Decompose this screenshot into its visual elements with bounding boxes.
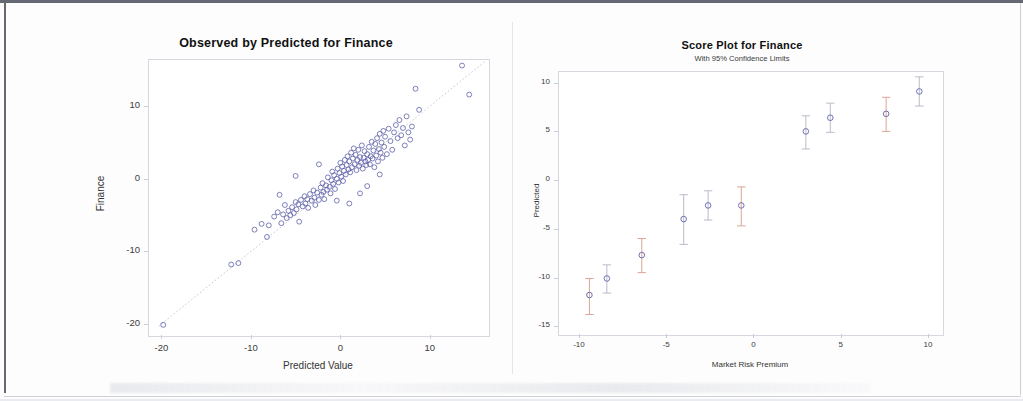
scatter-point: [467, 92, 472, 97]
y-tick-mark: [144, 251, 148, 252]
x-tick-mark: [430, 335, 431, 339]
scatter-point: [460, 63, 465, 68]
x-tick-label: 5: [821, 340, 861, 349]
right-y-axis-title: Predicted: [532, 151, 541, 251]
right-x-axis-title: Market Risk Premium: [558, 360, 942, 369]
right-chart-panel: Score Plot for Finance With 95% Confiden…: [512, 0, 972, 401]
page-border-left: [4, 3, 6, 393]
scatter-point: [302, 194, 307, 199]
x-tick-mark: [928, 334, 929, 338]
scatter-point: [279, 221, 284, 226]
scatter-point: [380, 155, 385, 160]
x-tick-label: -10: [231, 342, 271, 353]
left-chart-panel: Observed by Predicted for Finance Predic…: [60, 0, 512, 401]
x-tick-label: 10: [908, 340, 948, 349]
y-tick-label: 0: [518, 174, 550, 183]
scatter-point: [275, 210, 280, 215]
scatter-point: [297, 219, 302, 224]
scatter-point: [399, 133, 404, 138]
scatter-point: [406, 130, 411, 135]
scatter-point: [322, 197, 327, 202]
scatter-point: [404, 114, 409, 119]
x-tick-mark: [666, 334, 667, 338]
scatter-point: [259, 221, 264, 226]
scatter-point: [316, 197, 321, 202]
errorbar-point: [915, 77, 923, 106]
x-tick-label: -10: [559, 340, 599, 349]
scatter-point: [388, 139, 393, 144]
errorbar-point: [603, 265, 611, 293]
scatter-point: [306, 205, 311, 210]
x-tick-label: -20: [141, 342, 181, 353]
scatter-point: [316, 162, 321, 167]
scatter-point: [402, 143, 407, 148]
scatter-point: [277, 192, 282, 197]
scatter-point: [356, 147, 361, 152]
errorbar-point: [704, 191, 712, 220]
y-tick-mark: [554, 278, 558, 279]
left-y-axis-title: Finance: [95, 144, 106, 244]
y-tick-label: 5: [518, 125, 550, 134]
x-tick-label: -5: [646, 340, 686, 349]
scatter-point: [410, 124, 415, 129]
y-tick-label: -15: [518, 320, 550, 329]
scatter-point: [374, 153, 379, 158]
scatter-point: [334, 198, 339, 203]
x-tick-mark: [340, 335, 341, 339]
scatter-point: [383, 134, 388, 139]
left-plot-canvas: [60, 0, 512, 401]
scatter-point: [390, 147, 395, 152]
scatter-point: [384, 152, 389, 157]
scatter-point: [341, 179, 346, 184]
errorbar-point: [585, 278, 593, 314]
x-tick-label: 10: [410, 342, 450, 353]
x-tick-label: 0: [733, 340, 773, 349]
y-tick-mark: [554, 326, 558, 327]
scatter-point: [161, 322, 166, 327]
scatter-point: [333, 187, 338, 192]
scatter-point: [229, 262, 234, 267]
y-tick-mark: [144, 179, 148, 180]
errorbar-point: [737, 187, 745, 226]
errorbar-series: [585, 77, 923, 315]
left-x-axis-title: Predicted Value: [148, 360, 488, 371]
scatter-point: [272, 214, 277, 219]
scatter-point: [393, 123, 398, 128]
scatter-point: [359, 143, 364, 148]
x-tick-mark: [753, 334, 754, 338]
y-tick-mark: [554, 180, 558, 181]
scatter-point: [367, 144, 372, 149]
x-tick-mark: [841, 334, 842, 338]
scatter-point: [392, 130, 397, 135]
y-tick-label: 0: [102, 172, 140, 183]
scatter-point: [408, 137, 413, 142]
x-tick-label: 0: [320, 342, 360, 353]
x-tick-mark: [251, 335, 252, 339]
x-tick-mark: [161, 335, 162, 339]
scatter-point: [252, 227, 257, 232]
scatter-point: [376, 159, 381, 164]
scatter-point: [417, 107, 422, 112]
scatter-point: [293, 173, 298, 178]
scatter-point: [309, 198, 314, 203]
scatter-point: [413, 86, 418, 91]
scatter-point: [300, 204, 305, 209]
scatter-point: [397, 118, 402, 123]
y-tick-label: -5: [518, 223, 550, 232]
errorbar-point: [638, 239, 646, 273]
scatter-point: [266, 223, 271, 228]
errorbar-point: [882, 97, 890, 131]
scatter-point: [381, 128, 386, 133]
scatter-point: [328, 191, 333, 196]
scatter-point: [382, 144, 387, 149]
y-tick-label: -10: [518, 272, 550, 281]
scatter-point: [372, 165, 377, 170]
scatter-point: [294, 207, 299, 212]
page-border-right: [1020, 3, 1021, 395]
scatter-points: [161, 63, 472, 327]
y-tick-label: -10: [102, 244, 140, 255]
figure-page: Observed by Predicted for Finance Predic…: [0, 0, 1023, 401]
scatter-point: [365, 184, 370, 189]
scatter-point: [358, 191, 363, 196]
scatter-point: [362, 149, 367, 154]
